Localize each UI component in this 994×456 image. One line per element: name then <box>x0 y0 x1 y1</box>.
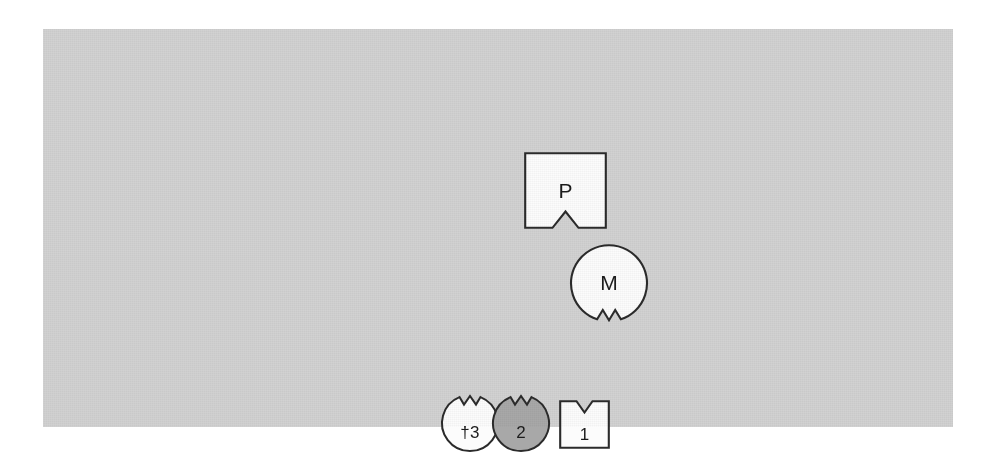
shape-two-outline <box>492 394 550 453</box>
shape-two[interactable]: 2 <box>492 394 550 453</box>
shape-m[interactable]: M <box>570 244 648 322</box>
figure-panel: P M †3 2 1 <box>43 29 953 427</box>
shape-three-outline <box>441 394 499 453</box>
shape-one-outline <box>559 400 610 449</box>
shape-one[interactable]: 1 <box>559 400 610 449</box>
shape-three[interactable]: †3 <box>441 394 499 453</box>
shape-m-outline <box>570 244 648 322</box>
shape-p-outline <box>524 152 607 229</box>
shape-p[interactable]: P <box>524 152 607 229</box>
